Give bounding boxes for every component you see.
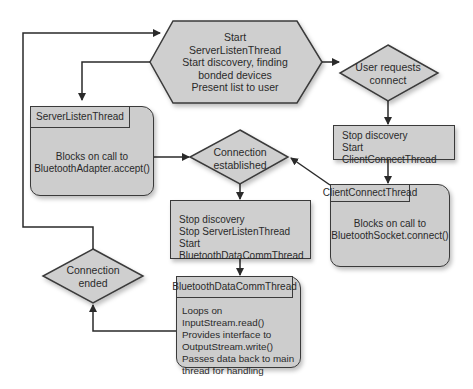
data-comm-thread-body: Loops on InputStream.read() Provides int…	[182, 305, 300, 377]
server-listen-thread-body: Blocks on call to BluetoothAdapter.accep…	[30, 151, 154, 175]
stop-discovery-client-box: Stop discovery Start ClientConnectThread	[333, 125, 455, 160]
data-comm-thread-title: BluetoothDataCommThread	[176, 276, 293, 298]
client-connect-thread-body: Blocks on call to BluetoothSocket.connec…	[330, 218, 450, 242]
box-line: Stop discovery	[342, 130, 454, 142]
box-line: Start BluetoothDataCommThread	[179, 238, 310, 262]
decision-line: established	[200, 159, 280, 172]
thread-line: thread for handling	[182, 365, 300, 377]
box-line: Stop discovery	[179, 214, 310, 226]
decision-line: User requests	[345, 61, 431, 74]
decision-line: ended	[53, 277, 133, 290]
user-requests-text: User requests connect	[345, 61, 431, 86]
client-connect-thread-title: ClientConnectThread	[330, 184, 410, 202]
server-listen-thread-title: ServerListenThread	[30, 106, 130, 128]
thread-line: OutputStream.write()	[182, 341, 300, 353]
start-node-text: Start ServerListenThread Start discovery…	[165, 31, 305, 94]
start-line: Start	[165, 31, 305, 44]
connection-established-text: Connection established	[200, 146, 280, 171]
start-line: bonded devices	[165, 69, 305, 82]
connection-ended-text: Connection ended	[53, 264, 133, 289]
start-line: Start discovery, finding	[165, 56, 305, 69]
box-line: Stop ServerListenThread	[179, 226, 310, 238]
box-line: Start ClientConnectThread	[342, 142, 454, 166]
thread-line: Blocks on call to	[30, 151, 154, 163]
thread-line: BluetoothSocket.connect()	[330, 230, 450, 242]
thread-line: Blocks on call to	[330, 218, 450, 230]
thread-line: Passes data back to main	[182, 353, 300, 365]
start-line: Present list to user	[165, 81, 305, 94]
thread-line: BluetoothAdapter.accept()	[30, 163, 154, 175]
decision-line: Connection	[200, 146, 280, 159]
thread-line: Loops on InputStream.read()	[182, 305, 300, 329]
start-line: ServerListenThread	[165, 44, 305, 57]
thread-line: Provides interface to	[182, 329, 300, 341]
decision-line: connect	[345, 74, 431, 87]
stop-server-box: Stop discovery Stop ServerListenThread S…	[170, 200, 311, 259]
decision-line: Connection	[53, 264, 133, 277]
